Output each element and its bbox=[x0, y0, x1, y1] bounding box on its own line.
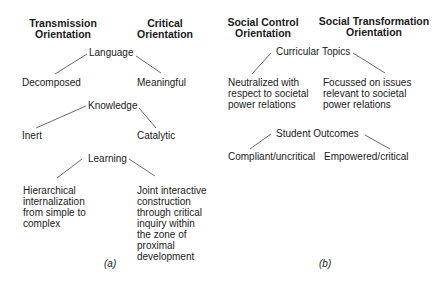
node-curricular-topics: Curricular Topics bbox=[276, 46, 350, 57]
header-critical-orientation: Critical Orientation bbox=[130, 18, 200, 40]
leaf-hierarchical-internalization: Hierarchical internalization from simple… bbox=[23, 185, 89, 229]
leaf-empowered-critical: Empowered/critical bbox=[324, 151, 408, 162]
node-knowledge: Knowledge bbox=[88, 100, 137, 111]
header-transmission-orientation: Transmission Orientation bbox=[18, 18, 108, 40]
leaf-catalytic: Catalytic bbox=[137, 130, 175, 141]
header-social-control-orientation: Social Control Orientation bbox=[224, 17, 302, 39]
leaf-inert: Inert bbox=[22, 130, 42, 141]
caption-b: (b) bbox=[319, 258, 331, 269]
leaf-neutralized: Neutralized with respect to societal pow… bbox=[228, 77, 310, 110]
node-language: Language bbox=[89, 47, 134, 58]
node-student-outcomes: Student Outcomes bbox=[276, 128, 359, 139]
leaf-decomposed: Decomposed bbox=[22, 77, 81, 88]
connector-lines bbox=[0, 0, 441, 281]
leaf-meaningful: Meaningful bbox=[137, 77, 186, 88]
leaf-compliant-uncritical: Compliant/uncritical bbox=[228, 151, 315, 162]
caption-a: (a) bbox=[104, 258, 116, 269]
leaf-joint-interactive-construction: Joint interactive construction through c… bbox=[137, 185, 211, 262]
leaf-focussed-on-issues: Focussed on issues relevant to societal … bbox=[323, 77, 415, 110]
node-learning: Learning bbox=[88, 153, 127, 164]
header-social-transformation-orientation: Social Transformation Orientation bbox=[317, 16, 431, 38]
